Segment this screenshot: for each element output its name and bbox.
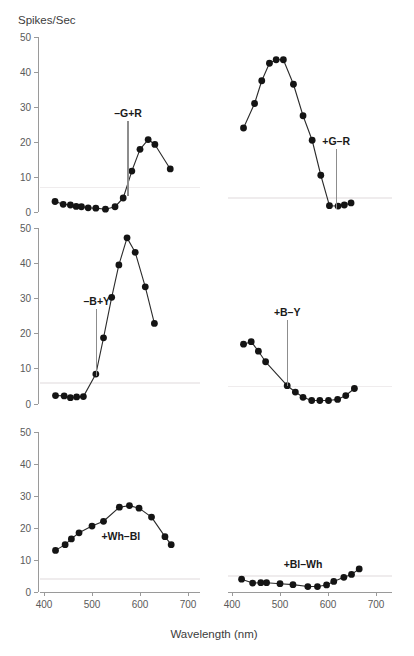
data-point-marker [317, 172, 324, 179]
x-tick-label: 400 [36, 599, 53, 610]
panel-g-minus-r: 01020304050–G+R [20, 32, 200, 218]
y-tick-label: 50 [20, 427, 32, 438]
data-point-marker [78, 203, 85, 210]
data-point-marker [262, 358, 269, 365]
data-point-marker [151, 141, 158, 148]
data-point-marker [334, 396, 341, 403]
data-point-marker [67, 394, 74, 401]
data-point-marker [304, 583, 311, 590]
data-point-marker [102, 206, 109, 213]
series-line [56, 238, 155, 398]
panel-annotation-label: –B+Y [84, 295, 111, 307]
data-point-marker [309, 137, 316, 144]
data-point-marker [348, 200, 355, 207]
y-tick-label: 30 [20, 102, 32, 113]
data-point-marker [76, 529, 83, 536]
data-point-marker [60, 201, 67, 208]
panel-plus-b-minus-y: +B–Y [228, 306, 392, 404]
data-point-marker [167, 166, 174, 173]
data-point-marker [132, 249, 139, 256]
data-point-marker [342, 392, 349, 399]
data-point-marker [151, 320, 158, 327]
y-tick-label: 10 [20, 172, 32, 183]
y-tick-label: 0 [25, 399, 31, 410]
data-point-marker [290, 81, 297, 88]
x-axis-title: Wavelength (nm) [170, 628, 257, 640]
data-point-marker [356, 566, 363, 573]
x-tick-label: 700 [180, 599, 197, 610]
data-point-marker [128, 168, 135, 175]
data-point-marker [124, 234, 131, 241]
data-point-marker [85, 204, 92, 211]
y-tick-label: 0 [25, 587, 31, 598]
y-tick-label: 50 [20, 223, 32, 234]
x-tick-label: 600 [320, 599, 337, 610]
data-point-marker [325, 397, 332, 404]
y-axis-title: Spikes/Sec [18, 14, 76, 26]
y-tick-label: 50 [20, 32, 32, 43]
panel-b-minus-y: 01020304050–B+Y [20, 223, 200, 410]
y-tick-label: 40 [20, 459, 32, 470]
data-point-marker [292, 389, 299, 396]
data-point-marker [52, 198, 59, 205]
data-point-marker [61, 393, 68, 400]
data-point-marker [52, 547, 59, 554]
y-tick-label: 20 [20, 137, 32, 148]
data-point-marker [120, 195, 127, 202]
spectral-response-figure: 01020304050–G+R+G–R01020304050–B+Y+B–Y01… [0, 0, 414, 656]
data-point-marker [89, 523, 96, 530]
panel-plus-g-minus-r: +G–R [228, 56, 392, 209]
data-point-marker [273, 56, 280, 63]
data-point-marker [145, 136, 152, 143]
data-point-marker [255, 348, 262, 355]
data-point-marker [100, 334, 107, 341]
data-point-marker [248, 338, 255, 345]
figure-canvas: 01020304050–G+R+G–R01020304050–B+Y+B–Y01… [0, 0, 414, 656]
data-point-marker [92, 371, 99, 378]
data-point-marker [238, 576, 245, 583]
data-point-marker [314, 583, 321, 590]
data-point-marker [323, 582, 330, 589]
data-point-marker [249, 580, 256, 587]
data-point-marker [142, 283, 149, 290]
data-point-marker [330, 578, 337, 585]
data-point-marker [266, 60, 273, 67]
data-point-marker [348, 571, 355, 578]
panel-annotation-label: –G+R [114, 107, 142, 119]
x-tick-label: 500 [84, 599, 101, 610]
y-tick-label: 20 [20, 328, 32, 339]
data-point-marker [277, 580, 284, 587]
y-tick-label: 10 [20, 363, 32, 374]
data-point-marker [73, 394, 80, 401]
data-point-marker [168, 541, 175, 548]
data-point-marker [162, 533, 169, 540]
data-point-marker [240, 125, 247, 132]
data-point-marker [263, 579, 270, 586]
data-point-marker [62, 541, 69, 548]
data-point-marker [100, 518, 107, 525]
data-point-marker [308, 397, 315, 404]
y-tick-label: 30 [20, 293, 32, 304]
data-point-marker [92, 205, 99, 212]
panel-annotation-label: +Wh–Bl [101, 530, 140, 542]
data-point-marker [300, 112, 307, 119]
data-point-marker [351, 385, 358, 392]
panel-plus-wh-minus-bl: 01020304050400500600700+Wh–Bl [20, 427, 200, 611]
x-tick-label: 400 [224, 599, 241, 610]
x-tick-label: 700 [368, 599, 385, 610]
data-point-marker [52, 392, 59, 399]
series-line [55, 140, 170, 210]
panel-annotation-label: +Bl–Wh [284, 558, 323, 570]
data-point-marker [316, 397, 323, 404]
data-point-marker [148, 514, 155, 521]
y-tick-label: 0 [25, 207, 31, 218]
data-point-marker [326, 202, 333, 209]
data-point-marker [67, 202, 74, 209]
x-tick-label: 600 [132, 599, 149, 610]
y-tick-label: 40 [20, 67, 32, 78]
data-point-marker [258, 77, 265, 84]
data-point-marker [340, 574, 347, 581]
data-point-marker [280, 56, 287, 63]
data-point-marker [126, 502, 133, 509]
y-tick-label: 10 [20, 555, 32, 566]
